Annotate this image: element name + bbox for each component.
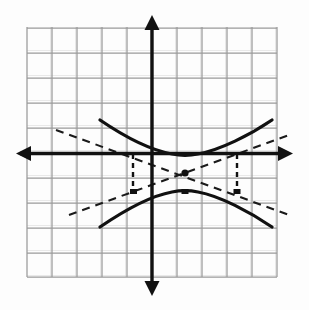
vertex-lower-marker — [182, 189, 189, 194]
rect-corner-bottom-left-marker — [130, 189, 137, 194]
center-point-marker — [181, 169, 188, 176]
rect-corner-bottom-right-marker — [234, 189, 241, 194]
hyperbola-figure — [0, 0, 309, 310]
graph-canvas: Hyperbola Graph on Coordinate Grid line … — [0, 0, 309, 310]
